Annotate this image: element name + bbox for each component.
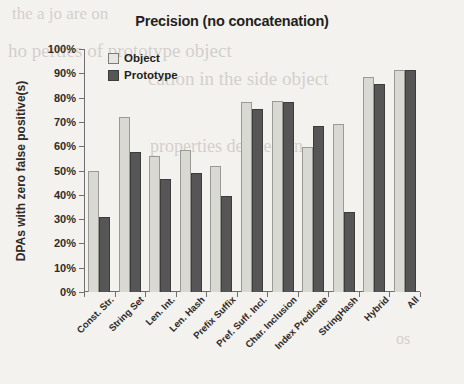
y-tick-label: 50% [54,165,76,177]
y-axis-title: DPAs with zero false positive(s) [12,49,30,292]
bar-object[interactable] [210,166,221,292]
bar-group [359,49,390,292]
legend-label-object: Object [124,52,160,64]
bar-prototype[interactable] [374,84,385,292]
x-axis-category-labels: Const. Str.String SetLen. Int.Len. HashP… [84,294,420,382]
bar-object[interactable] [302,147,313,292]
x-category-label: All [405,294,421,310]
y-tick-label: 40% [54,189,76,201]
bar-object[interactable] [180,150,191,292]
legend-item-object: Object [108,52,178,64]
bar-object[interactable] [149,156,160,292]
bar-prototype[interactable] [344,212,355,292]
y-tick-label: 80% [54,92,76,104]
bar-object[interactable] [333,124,344,292]
bar-object[interactable] [363,77,374,292]
y-tick-label: 30% [54,213,76,225]
bar-prototype[interactable] [130,152,141,292]
bar-prototype[interactable] [252,109,263,292]
x-tick-mark [420,292,421,297]
plot-area: 0%10%20%30%40%50%60%70%80%90%100% [84,49,420,292]
y-tick-label: 0% [60,286,76,298]
y-tick-label: 70% [54,116,76,128]
bar-prototype[interactable] [221,196,232,292]
y-axis-title-text: DPAs with zero false positive(s) [14,80,28,261]
chart-legend: Object Prototype [108,52,178,81]
y-tick-label: 100% [48,43,76,55]
bar-prototype[interactable] [191,173,202,292]
bar-group [84,49,115,292]
bar-series-container [84,49,420,292]
bar-prototype[interactable] [99,217,110,292]
dark-square-swatch-icon [108,70,119,81]
bar-object[interactable] [272,101,283,292]
x-category-label: Hybrid [361,294,390,323]
bar-group [206,49,237,292]
y-tick-label: 60% [54,140,76,152]
bar-group [267,49,298,292]
bar-prototype[interactable] [283,102,294,292]
y-tick-label: 20% [54,237,76,249]
bar-prototype[interactable] [313,126,324,292]
bar-object[interactable] [88,171,99,293]
bar-group [115,49,146,292]
chart-title: Precision (no concatenation) [0,13,464,29]
light-square-swatch-icon [108,53,119,64]
bar-group [145,49,176,292]
bar-chart: Precision (no concatenation) DPAs with z… [0,0,464,384]
bar-group [298,49,329,292]
bar-prototype[interactable] [405,70,416,292]
y-tick-label: 10% [54,262,76,274]
bar-object[interactable] [119,117,130,292]
bar-object[interactable] [394,70,405,292]
bar-group [328,49,359,292]
legend-item-prototype: Prototype [108,69,178,81]
legend-label-prototype: Prototype [124,69,178,81]
bar-object[interactable] [241,102,252,292]
y-tick-label: 90% [54,67,76,79]
bar-group [237,49,268,292]
bar-group [389,49,420,292]
bar-prototype[interactable] [160,179,171,292]
bar-group [176,49,207,292]
